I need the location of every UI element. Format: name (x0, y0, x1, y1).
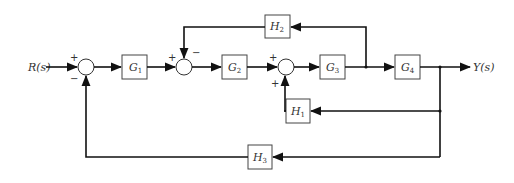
sign-s1-plus: + (70, 52, 78, 63)
summing-junction-1 (78, 59, 94, 75)
output-label: Y(s) (473, 61, 495, 74)
block-diagram: R(s) + − G1 + − G2 + + G3 H2 (0, 0, 514, 183)
summing-junction-3 (278, 59, 294, 75)
wire-h3-s1 (86, 76, 248, 157)
sign-s3-plus-bottom: + (271, 78, 279, 89)
summing-junction-2 (176, 59, 192, 75)
block-h2: H2 (265, 15, 290, 38)
block-g1: G1 (122, 55, 147, 79)
sign-s2-minus: − (192, 47, 200, 58)
sign-s3-plus-top: + (269, 52, 277, 63)
block-h3: H3 (248, 145, 272, 169)
block-g4: G4 (395, 55, 420, 79)
block-g3: G3 (320, 55, 345, 79)
sign-s1-minus: − (70, 73, 78, 84)
sign-s2-plus: + (168, 52, 176, 63)
block-g2: G2 (222, 55, 247, 79)
block-h1: H1 (286, 99, 310, 123)
